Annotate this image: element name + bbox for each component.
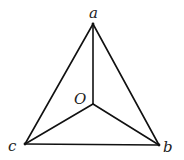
label-a: a	[89, 4, 98, 22]
vertex-c	[24, 143, 27, 146]
edge-O-b	[93, 104, 159, 145]
edge-O-c	[25, 104, 93, 144]
edge-a-b	[93, 24, 159, 145]
edge-a-c	[25, 24, 93, 144]
edge-b-c	[25, 144, 159, 145]
label-O: O	[74, 90, 86, 108]
label-c: c	[8, 137, 17, 155]
vertex-b	[158, 144, 161, 147]
label-b: b	[163, 138, 173, 156]
tetrahedron-diagram: a O c b	[0, 0, 184, 160]
vertex-a	[92, 23, 95, 26]
